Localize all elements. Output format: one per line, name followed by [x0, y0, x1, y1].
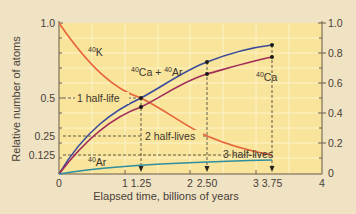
svg-text:4: 4: [319, 177, 325, 189]
y-axis-right-labels: 1.0 0.8 0.6 0.4 0.2 0: [328, 17, 343, 179]
svg-text:0.2: 0.2: [328, 137, 343, 149]
svg-text:3.75: 3.75: [262, 177, 283, 189]
x-axis-labels: 0 1 1.25 2 2.50 3 3.75 4: [56, 177, 325, 189]
svg-text:1: 1: [122, 177, 128, 189]
svg-text:2.50: 2.50: [197, 177, 218, 189]
label-40ca-40ar: 40Ca + 40Ar: [131, 66, 183, 78]
svg-text:0.4: 0.4: [328, 107, 343, 119]
svg-text:2: 2: [187, 177, 193, 189]
svg-text:0.5: 0.5: [40, 92, 55, 104]
y-axis-title: Relative number of atoms: [10, 36, 22, 162]
decay-chart: 40K 40Ca + 40Ar 40Ca 40Ar 1 half-life 2 …: [0, 0, 356, 214]
x-axis-title: Elapsed time, billions of years: [93, 190, 239, 202]
svg-text:0.8: 0.8: [328, 47, 343, 59]
svg-text:0: 0: [56, 177, 62, 189]
svg-text:1.25: 1.25: [131, 177, 152, 189]
annotation-2-half-lives: 2 half-lives: [145, 130, 195, 142]
annotation-3-half-lives: 3 half-lives: [223, 148, 273, 160]
annotation-1-half-life: 1 half-life: [77, 92, 120, 104]
svg-text:1.0: 1.0: [40, 17, 55, 29]
svg-text:0.6: 0.6: [328, 77, 343, 89]
svg-text:3: 3: [253, 177, 259, 189]
svg-text:0.25: 0.25: [35, 130, 56, 142]
svg-text:0.125: 0.125: [29, 149, 55, 161]
svg-text:0: 0: [328, 167, 334, 179]
svg-text:1.0: 1.0: [328, 17, 343, 29]
y-axis-left-labels: 1.0 0.5 0.25 0.125: [29, 17, 55, 161]
